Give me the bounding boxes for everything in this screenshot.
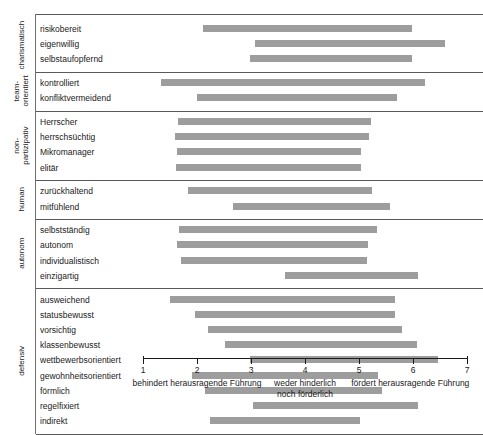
attribute-label: vorsichtig xyxy=(40,324,76,337)
group-label-4: autonom xyxy=(10,223,32,284)
range-bar xyxy=(195,311,395,318)
attribute-row: elitär xyxy=(0,161,483,176)
attribute-label: selbstständig xyxy=(40,224,90,237)
range-bar xyxy=(233,203,390,210)
x-axis-tick-label: 3 xyxy=(241,365,261,375)
group-label-2: non- partizipativ xyxy=(10,115,32,176)
group-separator xyxy=(36,180,483,181)
attribute-row: einzigartig xyxy=(0,269,483,284)
attribute-row: risikobereit xyxy=(0,22,483,37)
attribute-label: wettbewerbsorientiert xyxy=(40,354,121,367)
group-separator xyxy=(36,72,483,73)
attribute-label: ausweichend xyxy=(40,294,90,307)
range-bar xyxy=(175,133,369,140)
x-axis-tick xyxy=(467,356,468,364)
attribute-row: zurückhaltend xyxy=(0,184,483,199)
attribute-label: mitfühlend xyxy=(40,201,79,214)
range-bar xyxy=(188,187,372,194)
attribute-row: Mikromanager xyxy=(0,145,483,160)
range-bar xyxy=(250,55,412,62)
attribute-row: konfliktvermeidend xyxy=(0,91,483,106)
attribute-row: statusbewusst xyxy=(0,308,483,323)
group-separator xyxy=(36,111,483,112)
range-bar xyxy=(210,417,360,424)
attribute-row: Herrscher xyxy=(0,115,483,130)
range-bar xyxy=(197,94,397,101)
attribute-row: individualistisch xyxy=(0,254,483,269)
attribute-label: autonom xyxy=(40,239,73,252)
group-label-divider xyxy=(35,14,36,434)
attribute-row: regelfixiert xyxy=(0,399,483,414)
attribute-label: zurückhaltend xyxy=(40,185,93,198)
range-bar xyxy=(208,326,402,333)
attribute-row: vorsichtig xyxy=(0,323,483,338)
attribute-label: risikobereit xyxy=(40,23,81,36)
x-axis-tick xyxy=(197,358,198,364)
attribute-label: klassenbewusst xyxy=(40,339,100,352)
range-bar xyxy=(253,402,418,409)
x-axis-tick-label: 6 xyxy=(403,365,423,375)
range-bar xyxy=(203,25,412,32)
group-label-1: team- orientiert xyxy=(10,76,32,106)
attribute-label: eigenwillig xyxy=(40,38,79,51)
range-bar xyxy=(176,164,361,171)
group-separator xyxy=(36,219,483,220)
attribute-row: selbstständig xyxy=(0,223,483,238)
range-bar xyxy=(178,118,371,125)
chart-bottom-rule xyxy=(36,434,483,435)
attribute-row: ausweichend xyxy=(0,293,483,308)
x-axis-tick xyxy=(305,358,306,364)
x-axis-tick-label: 2 xyxy=(187,365,207,375)
chart-top-rule xyxy=(36,14,483,15)
attribute-label: konfliktvermeidend xyxy=(40,92,111,105)
attribute-row: selbstaufopfernd xyxy=(0,52,483,67)
group-separator xyxy=(36,288,483,289)
attribute-label: Mikromanager xyxy=(40,146,94,159)
range-bar xyxy=(179,226,377,233)
attribute-row: autonom xyxy=(0,238,483,253)
x-axis-tick xyxy=(143,356,144,364)
attribute-label: individualistisch xyxy=(40,255,99,268)
attribute-label: elitär xyxy=(40,162,58,175)
range-bar xyxy=(161,79,425,86)
range-bar xyxy=(170,296,395,303)
attribute-row: eigenwillig xyxy=(0,37,483,52)
attribute-label: einzigartig xyxy=(40,270,79,283)
attribute-row: herrschsüchtig xyxy=(0,130,483,145)
range-bar xyxy=(177,241,368,248)
attribute-row: indirekt xyxy=(0,414,483,429)
attribute-row: mitfühlend xyxy=(0,200,483,215)
range-bar xyxy=(225,341,417,348)
x-axis-tick-label: 1 xyxy=(133,365,153,375)
attribute-label: Herrscher xyxy=(40,116,77,129)
x-axis-tick-label: 7 xyxy=(457,365,477,375)
attribute-label: statusbewusst xyxy=(40,309,94,322)
range-bar xyxy=(177,148,361,155)
attribute-row: kontrolliert xyxy=(0,76,483,91)
attribute-label: förmlich xyxy=(40,385,70,398)
attribute-label: selbstaufopfernd xyxy=(40,53,103,66)
attribute-label: kontrolliert xyxy=(40,77,79,90)
group-label-3: human xyxy=(10,184,32,214)
x-axis-tick xyxy=(359,358,360,364)
attribute-label: herrschsüchtig xyxy=(40,131,95,144)
attribute-label: indirekt xyxy=(40,415,67,428)
group-label-5: defensiv xyxy=(10,293,32,430)
attribute-row: klassenbewusst xyxy=(0,338,483,353)
attribute-label: regelfixiert xyxy=(40,400,79,413)
range-bar xyxy=(255,40,445,47)
range-bar xyxy=(285,272,418,279)
x-axis-caption-2: fördert herausragende Führung xyxy=(320,378,483,389)
x-axis-tick xyxy=(413,358,414,364)
x-axis-tick-label: 4 xyxy=(295,365,315,375)
range-bar xyxy=(181,257,367,264)
x-axis-tick-label: 5 xyxy=(349,365,369,375)
x-axis-tick xyxy=(251,358,252,364)
group-label-0: charismatisch xyxy=(10,22,32,68)
